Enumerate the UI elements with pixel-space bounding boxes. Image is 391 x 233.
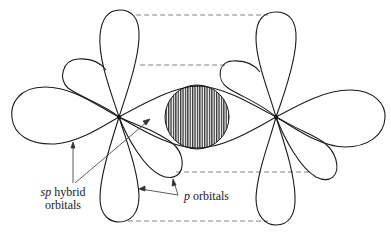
left-p-lobe-upper-left: [63, 59, 119, 117]
p-orbitals-label: p orbitals: [184, 190, 229, 203]
left-p-lobe-top: [100, 10, 139, 117]
pi-overlap-region: [165, 85, 229, 149]
sp-label-prefix: sp: [40, 185, 51, 199]
right-p-lobe-top: [256, 12, 296, 117]
sp-label-suffix: hybrid: [51, 185, 85, 199]
right-sp-lobe-outer: [276, 90, 385, 147]
left-nucleus: [117, 115, 121, 119]
p-label-suffix: orbitals: [190, 189, 229, 203]
right-p-lobe-bottom: [256, 117, 295, 225]
p-label-arrows: [139, 179, 178, 195]
left-sp-lobe-outer: [12, 87, 119, 144]
right-nucleus: [274, 115, 278, 119]
left-p-lobe-bottom: [100, 117, 139, 222]
sp-label-arrows: [71, 119, 150, 183]
sp-hybrid-orbitals-label: sp hybrid orbitals: [28, 186, 98, 212]
sp-label-line2: orbitals: [45, 198, 81, 212]
